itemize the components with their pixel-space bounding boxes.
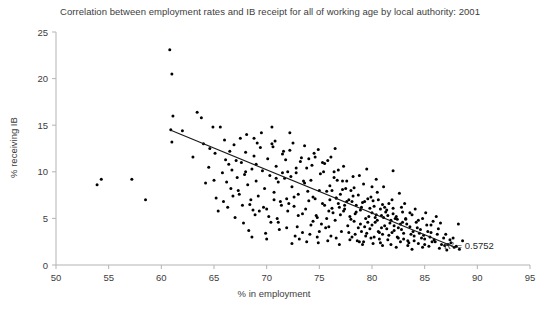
scatter-point	[349, 189, 352, 192]
scatter-point	[389, 243, 392, 246]
scatter-point	[421, 217, 424, 220]
scatter-point	[409, 233, 412, 236]
scatter-point	[379, 241, 382, 244]
scatter-point	[317, 241, 320, 244]
scatter-point	[337, 168, 340, 171]
scatter-point	[281, 171, 284, 174]
scatter-point	[337, 202, 340, 205]
scatter-point	[312, 220, 315, 223]
scatter-point	[404, 217, 407, 220]
scatter-point	[267, 215, 270, 218]
scatter-point	[307, 157, 310, 160]
scatter-point	[411, 248, 414, 251]
scatter-point	[371, 185, 374, 188]
scatter-point	[234, 216, 237, 219]
scatter-point	[353, 220, 356, 223]
scatter-point	[346, 224, 349, 227]
scatter-point	[215, 196, 218, 199]
scatter-point	[287, 202, 290, 205]
scatter-point	[221, 171, 224, 174]
x-axis-label: % in employment	[0, 288, 548, 299]
scatter-point	[228, 150, 231, 153]
scatter-point	[417, 242, 420, 245]
scatter-point	[387, 202, 390, 205]
scatter-point	[380, 226, 383, 229]
scatter-point	[437, 227, 440, 230]
scatter-point	[444, 233, 447, 236]
scatter-point	[400, 206, 403, 209]
scatter-point	[317, 148, 320, 151]
scatter-point	[281, 153, 284, 156]
scatter-point	[326, 239, 329, 242]
scatter-point	[363, 225, 366, 228]
scatter-point	[288, 131, 291, 134]
scatter-point	[235, 159, 238, 162]
scatter-point	[306, 190, 309, 193]
scatter-point	[300, 156, 303, 159]
scatter-point	[405, 222, 408, 225]
scatter-point	[191, 155, 194, 158]
scatter-point	[328, 184, 331, 187]
scatter-point	[247, 229, 250, 232]
y-tick-label: 15	[37, 120, 48, 131]
scatter-point	[290, 185, 293, 188]
scatter-point	[297, 214, 300, 217]
scatter-point	[269, 221, 272, 224]
scatter-point	[339, 193, 342, 196]
scatter-point	[345, 180, 348, 183]
scatter-point	[309, 223, 312, 226]
scatter-point	[225, 181, 228, 184]
scatter-point	[359, 222, 362, 225]
scatter-point	[100, 178, 103, 181]
scatter-point	[302, 180, 305, 183]
scatter-point	[265, 208, 268, 211]
scatter-point	[301, 212, 304, 215]
scatter-point	[360, 230, 363, 233]
scatter-point	[383, 206, 386, 209]
scatter-point	[362, 182, 365, 185]
scatter-point	[316, 236, 319, 239]
scatter-point	[432, 220, 435, 223]
scatter-point	[227, 163, 230, 166]
scatter-point	[332, 211, 335, 214]
scatter-point	[365, 232, 368, 235]
scatter-point	[330, 207, 333, 210]
scatter-point	[250, 236, 253, 239]
scatter-point	[301, 231, 304, 234]
scatter-point	[277, 181, 280, 184]
scatter-point	[285, 226, 288, 229]
scatter-point	[266, 157, 269, 160]
scatter-point	[250, 168, 253, 171]
scatter-point	[294, 235, 297, 238]
scatter-point	[297, 193, 300, 196]
y-tick-label: 0	[43, 260, 48, 271]
scatter-point	[259, 146, 262, 149]
x-tick-label: 50	[51, 272, 62, 283]
scatter-point	[251, 209, 254, 212]
scatter-point	[231, 195, 234, 198]
scatter-point	[330, 189, 333, 192]
scatter-point	[244, 170, 247, 173]
scatter-point	[285, 197, 288, 200]
scatter-point	[347, 231, 350, 234]
scatter-point	[244, 151, 247, 154]
scatter-point	[130, 178, 133, 181]
scatter-point	[372, 242, 375, 245]
x-tick-label: 90	[472, 272, 483, 283]
scatter-point	[273, 198, 276, 201]
scatter-point	[349, 218, 352, 221]
scatter-point	[388, 222, 391, 225]
scatter-point	[372, 199, 375, 202]
scatter-point	[333, 170, 336, 173]
scatter-point	[295, 167, 298, 170]
scatter-point	[401, 221, 404, 224]
scatter-points	[96, 48, 465, 251]
scatter-point	[364, 235, 367, 238]
scatter-point	[249, 198, 252, 201]
scatter-point	[383, 224, 386, 227]
scatter-point	[414, 208, 417, 211]
scatter-point	[303, 144, 306, 147]
scatter-point	[423, 237, 426, 240]
scatter-point	[393, 224, 396, 227]
scatter-point	[270, 126, 273, 129]
